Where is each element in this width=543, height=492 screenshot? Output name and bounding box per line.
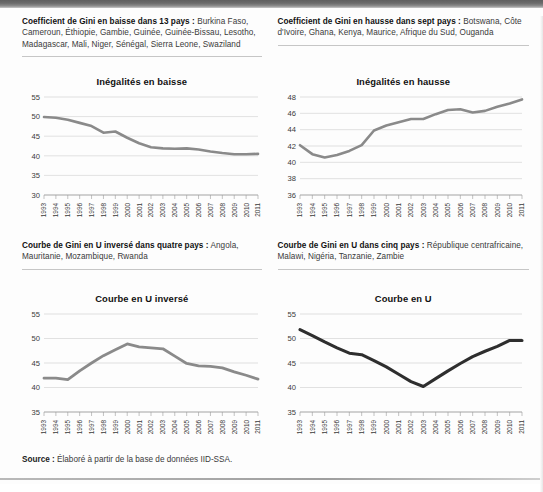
- data-line: [300, 99, 522, 157]
- x-tick-label: 2000: [124, 203, 131, 218]
- caption-hausse: Coefficient de Gini en hausse dans sept …: [278, 16, 530, 39]
- chart-u-inverse: 3540455055199319941995199619971998199920…: [22, 308, 262, 458]
- x-tick-label: 2007: [469, 420, 476, 435]
- chart-u: 3540455055199319941995199619971998199920…: [278, 308, 530, 458]
- x-tick-label: 1998: [358, 203, 365, 218]
- x-tick-label: 2000: [382, 203, 389, 218]
- x-tick-label: 2011: [254, 203, 261, 217]
- x-tick-label: 1993: [40, 203, 47, 218]
- panel-hausse-caption: Coefficient de Gini en hausse dans sept …: [272, 16, 543, 64]
- x-tick-label: 1995: [321, 203, 328, 218]
- y-tick-label: 50: [32, 334, 40, 343]
- chart-title-baisse: Inégalités en baisse: [22, 76, 262, 87]
- x-tick-label: 2001: [136, 203, 143, 218]
- x-tick-label: 1998: [358, 420, 365, 435]
- chart-baisse: 3035404550551993199419951996199719981999…: [22, 91, 262, 241]
- data-line: [44, 117, 258, 154]
- captions-row-top: Coefficient de Gini en baisse dans 13 pa…: [0, 16, 543, 64]
- x-tick-label: 1996: [76, 420, 83, 435]
- x-tick-label: 2006: [456, 420, 463, 435]
- x-tick-label: 2010: [243, 420, 250, 435]
- charts-row-bottom: Courbe en U inversé 35404550551993199419…: [0, 293, 543, 458]
- x-tick-label: 2005: [183, 203, 190, 218]
- y-tick-label: 45: [32, 132, 40, 141]
- x-tick-label: 1993: [296, 420, 303, 435]
- y-tick-label: 36: [287, 191, 295, 200]
- y-tick-label: 55: [32, 93, 40, 102]
- x-tick-label: 2010: [243, 203, 250, 218]
- y-tick-label: 30: [32, 191, 40, 200]
- bottom-divider: [0, 478, 543, 480]
- x-tick-label: 1994: [308, 203, 315, 218]
- y-tick-label: 48: [287, 93, 295, 102]
- figure-page: Coefficient de Gini en baisse dans 13 pa…: [0, 8, 543, 484]
- x-tick-label: 1995: [64, 420, 71, 435]
- x-tick-label: 2008: [481, 420, 488, 435]
- x-tick-label: 2008: [219, 420, 226, 435]
- chart-title-u-inverse: Courbe en U inversé: [22, 293, 262, 304]
- y-tick-label: 38: [287, 174, 295, 183]
- y-tick-label: 40: [287, 158, 295, 167]
- x-tick-label: 1995: [321, 420, 328, 435]
- x-tick-label: 1994: [308, 420, 315, 435]
- x-tick-label: 2004: [171, 420, 178, 435]
- x-tick-label: 1995: [64, 203, 71, 218]
- x-tick-label: 2001: [395, 420, 402, 435]
- x-tick-label: 2002: [147, 420, 154, 435]
- x-tick-label: 2003: [159, 420, 166, 435]
- y-tick-label: 40: [287, 383, 295, 392]
- x-tick-label: 2007: [469, 203, 476, 218]
- x-tick-label: 2003: [159, 203, 166, 218]
- x-tick-label: 1997: [345, 203, 352, 218]
- x-tick-label: 2000: [124, 420, 131, 435]
- x-tick-label: 2002: [407, 420, 414, 435]
- chart-panel-baisse: Inégalités en baisse 3035404550551993199…: [0, 76, 272, 241]
- x-tick-label: 2001: [136, 420, 143, 435]
- x-tick-label: 2002: [407, 203, 414, 218]
- y-tick-label: 40: [32, 383, 40, 392]
- x-tick-label: 2004: [432, 420, 439, 435]
- x-tick-label: 1999: [112, 203, 119, 218]
- x-tick-label: 2008: [219, 203, 226, 218]
- chart-title-u: Courbe en U: [278, 293, 530, 304]
- y-tick-label: 50: [32, 112, 40, 121]
- chart-panel-hausse: Inégalités en hausse 3638404244464819931…: [272, 76, 543, 241]
- x-tick-label: 2009: [493, 203, 500, 218]
- caption-u-bold: Courbe de Gini en U dans cinq pays :: [278, 241, 425, 250]
- caption-u-inverse: Courbe de Gini en U inversé dans quatre …: [22, 240, 262, 263]
- chart-u-inverse-svg: 3540455055199319941995199619971998199920…: [22, 308, 262, 458]
- y-tick-label: 55: [287, 310, 295, 319]
- y-tick-label: 50: [287, 334, 295, 343]
- x-tick-label: 2001: [395, 203, 402, 218]
- caption-baisse: Coefficient de Gini en baisse dans 13 pa…: [22, 16, 262, 50]
- x-tick-label: 2005: [444, 203, 451, 218]
- x-tick-label: 1996: [333, 420, 340, 435]
- panel-u-caption: Courbe de Gini en U dans cinq pays : Rép…: [272, 240, 543, 277]
- x-tick-label: 2010: [506, 420, 513, 435]
- x-tick-label: 2006: [195, 203, 202, 218]
- chart-baisse-svg: 3035404550551993199419951996199719981999…: [22, 91, 262, 241]
- captions-row-bottom: Courbe de Gini en U inversé dans quatre …: [0, 240, 543, 277]
- x-tick-label: 2002: [147, 203, 154, 218]
- x-tick-label: 1997: [88, 203, 95, 218]
- source-note: Source : Élaboré à partir de la base de …: [22, 455, 522, 464]
- scan-top-strip: [0, 0, 543, 8]
- chart-panel-u: Courbe en U 3540455055199319941995199619…: [272, 293, 543, 458]
- charts-row-top: Inégalités en baisse 3035404550551993199…: [0, 76, 543, 241]
- divider-u: [278, 269, 530, 270]
- x-tick-label: 1997: [345, 420, 352, 435]
- x-tick-label: 1997: [88, 420, 95, 435]
- x-tick-label: 2004: [432, 203, 439, 218]
- x-tick-label: 2005: [444, 420, 451, 435]
- x-tick-label: 2009: [231, 203, 238, 218]
- divider-u-inverse: [22, 269, 262, 270]
- x-tick-label: 2007: [207, 420, 214, 435]
- x-tick-label: 2009: [493, 420, 500, 435]
- x-tick-label: 2011: [254, 420, 261, 434]
- source-text: Élaboré à partir de la base de données I…: [55, 455, 233, 464]
- data-line: [44, 344, 258, 380]
- x-tick-label: 2011: [518, 420, 525, 434]
- y-tick-label: 45: [32, 359, 40, 368]
- y-tick-label: 42: [287, 142, 295, 151]
- x-tick-label: 2005: [183, 420, 190, 435]
